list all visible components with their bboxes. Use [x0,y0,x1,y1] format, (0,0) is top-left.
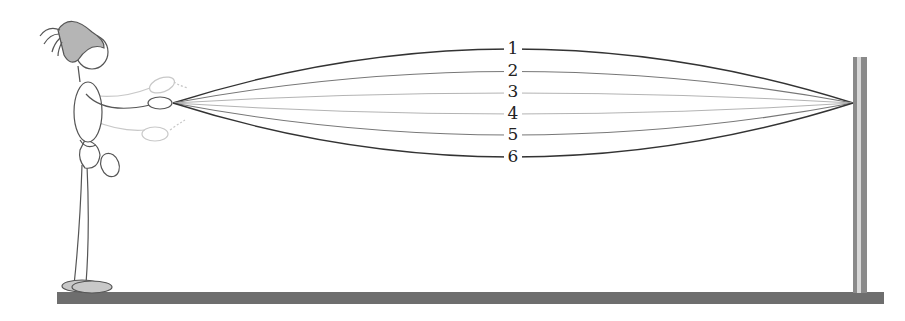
person-figure [40,21,188,293]
post [853,57,867,293]
ground-bar [57,292,884,304]
string-label-2: 2 [508,60,519,80]
string-label-3: 3 [508,81,519,101]
string-label-5: 5 [508,124,519,144]
standing-wave-diagram: 1 2 3 4 5 6 [0,0,905,321]
string-label-1: 1 [508,38,519,58]
string-label-4: 4 [508,103,519,123]
hand [148,97,172,109]
string-label-6: 6 [508,146,519,166]
